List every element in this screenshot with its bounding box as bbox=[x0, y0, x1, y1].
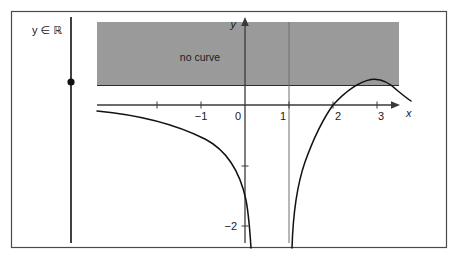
graph-canvas: no curve y ∈ ℝ y x −1 0 1 2 3 bbox=[0, 0, 459, 260]
range-label: y ∈ ℝ bbox=[32, 24, 62, 36]
graph-figure: no curve y ∈ ℝ y x −1 0 1 2 3 bbox=[0, 0, 459, 260]
no-curve-label: no curve bbox=[180, 51, 220, 63]
x-tick-label-1: 1 bbox=[280, 110, 286, 122]
range-indicator-endpoint-dot bbox=[67, 78, 74, 85]
x-tick-label-3: 3 bbox=[378, 110, 384, 122]
y-tick-label--2: −2 bbox=[224, 220, 237, 232]
x-axis-label: x bbox=[405, 107, 412, 119]
x-tick-label-0: 0 bbox=[235, 110, 241, 122]
x-tick-label-2: 2 bbox=[335, 110, 341, 122]
x-tick-label--1: −1 bbox=[195, 110, 208, 122]
no-curve-band bbox=[97, 22, 399, 85]
